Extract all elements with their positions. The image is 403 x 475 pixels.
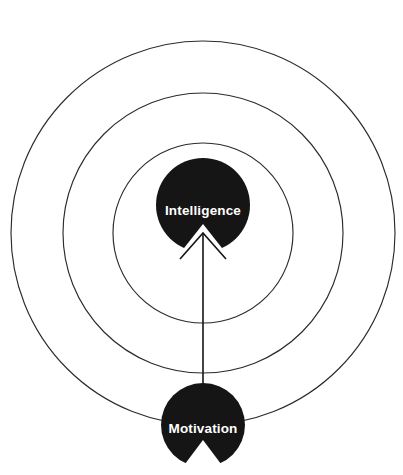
node-motivation[interactable]: Motivation xyxy=(161,383,245,467)
node-intelligence[interactable]: Intelligence xyxy=(156,158,250,252)
intelligence-label: Intelligence xyxy=(165,203,241,218)
motivation-to-intelligence-arrow xyxy=(180,233,226,392)
motivation-label: Motivation xyxy=(169,421,238,436)
concentric-circles-diagram: Intelligence Motivation xyxy=(0,0,403,475)
diagram-canvas: Intelligence Motivation xyxy=(0,0,403,475)
